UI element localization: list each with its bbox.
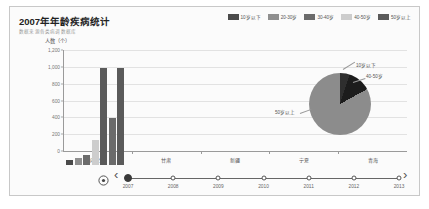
timeline-node-2012[interactable] — [351, 176, 356, 181]
legend-swatch-icon — [378, 14, 389, 20]
y-axis-tick-label: 1,200 — [48, 48, 60, 53]
page-subtitle: 数据来源各类病调数据库 — [19, 28, 76, 34]
x-axis-tick-mark — [338, 151, 339, 154]
y-axis-title: 人数（个） — [45, 37, 70, 44]
y-axis-line — [63, 50, 64, 151]
timeline-year-label[interactable]: 2011 — [303, 184, 313, 189]
bar[interactable] — [83, 155, 90, 165]
bar[interactable] — [92, 140, 99, 165]
y-axis-tick-label: 800 — [52, 81, 60, 86]
pie-slices — [309, 73, 371, 135]
legend-item-label: 40-50岁 — [354, 14, 371, 20]
legend-item[interactable]: 40-50岁 — [341, 14, 371, 20]
legend-item-label: 30-40岁 — [317, 14, 334, 20]
timeline-node-2013[interactable] — [397, 176, 402, 181]
timeline-year-label[interactable]: 2010 — [258, 184, 269, 189]
timeline-year-label[interactable]: 2009 — [213, 184, 224, 189]
bar[interactable] — [109, 118, 116, 165]
bar[interactable] — [75, 158, 82, 165]
timeline-node-2011[interactable] — [306, 176, 311, 181]
bar[interactable] — [66, 160, 73, 165]
pie-chart: 10岁以下 40-50岁 50岁以上 — [309, 73, 371, 135]
legend-item-label: 10岁以下 — [241, 14, 261, 20]
y-axis-tick-label: 200 — [52, 132, 60, 137]
x-axis-tick-label: 新疆 — [230, 156, 240, 163]
gridline — [63, 50, 407, 51]
timeline-node-2007[interactable] — [124, 174, 132, 182]
timeline-year-label[interactable]: 2012 — [348, 184, 359, 189]
pie-callout-right: 40-50岁 — [366, 73, 383, 79]
x-axis-tick-mark — [269, 151, 270, 154]
timeline-year-label[interactable]: 2008 — [168, 184, 179, 189]
x-axis-tick-label: 青海 — [368, 156, 378, 163]
legend-swatch-icon — [228, 14, 239, 20]
y-axis-tick-label: 600 — [52, 98, 60, 103]
bar[interactable] — [100, 68, 107, 165]
bar-chart: 人数（个） 02004006008001,0001,200 内蒙古甘肃新疆宁夏青… — [19, 37, 412, 165]
legend: 10岁以下 20-30岁 30-40岁 40-50岁 50岁以上 — [228, 14, 412, 20]
timeline-node-2009[interactable] — [216, 176, 221, 181]
legend-item[interactable]: 10岁以下 — [228, 14, 261, 20]
timeline-year-label[interactable]: 2007 — [123, 184, 134, 189]
y-axis-tick-label: 0 — [57, 149, 60, 154]
x-axis-tick-label: 甘肃 — [161, 156, 171, 163]
legend-item[interactable]: 20-30岁 — [268, 14, 298, 20]
year-timeline: ‹ 2007200820092010201120122013 › — [10, 167, 419, 197]
timeline-node-2008[interactable] — [171, 176, 176, 181]
chevron-left-icon[interactable]: ‹ — [114, 168, 118, 181]
chart-panel: 2007年年龄疾病统计 数据来源各类病调数据库 10岁以下 20-30岁 30-… — [9, 6, 420, 196]
chevron-right-icon[interactable]: › — [403, 168, 407, 181]
legend-swatch-icon — [268, 14, 279, 20]
x-axis-tick-mark — [201, 151, 202, 154]
y-axis-tick-label: 400 — [52, 115, 60, 120]
legend-item-label: 20-30岁 — [281, 14, 298, 20]
timeline-year-label[interactable]: 2013 — [394, 184, 405, 189]
legend-item-label: 50岁以上 — [391, 14, 411, 20]
bar[interactable] — [117, 68, 124, 165]
legend-item[interactable]: 30-40岁 — [304, 14, 334, 20]
page-title: 2007年年龄疾病统计 — [19, 14, 110, 28]
x-axis-tick-mark — [132, 151, 133, 154]
y-axis-tick-label: 1,000 — [48, 64, 60, 69]
legend-swatch-icon — [304, 14, 315, 20]
legend-swatch-icon — [341, 14, 352, 20]
play-circle-icon[interactable] — [98, 172, 109, 190]
pie-callout-left: 50岁以上 — [275, 109, 295, 115]
legend-item[interactable]: 50岁以上 — [378, 14, 411, 20]
pie-callout-top: 10岁以下 — [356, 62, 376, 68]
x-axis-tick-label: 宁夏 — [299, 156, 309, 163]
timeline-node-2010[interactable] — [261, 176, 266, 181]
